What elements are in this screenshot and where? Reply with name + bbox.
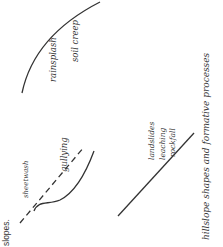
hillslope-diagram: rainsplash soil creep sheetwash gullying…: [0, 0, 223, 247]
label-rainsplash: rainsplash: [48, 37, 58, 82]
label-leaching: leaching: [158, 127, 167, 160]
straight-slope-line: [118, 133, 194, 216]
label-soil-creep: soil creep: [70, 19, 80, 62]
diagram-title: hillslope shapes and formative processes: [201, 52, 211, 240]
label-landslides: landslides: [147, 122, 156, 160]
caption-fragment: slopes.: [1, 219, 11, 246]
convex-slope-curve: [22, 2, 100, 93]
label-gullying: gullying: [59, 137, 69, 172]
label-sheetwash: sheetwash: [22, 161, 30, 198]
label-rockfall: rockfall: [168, 128, 177, 157]
